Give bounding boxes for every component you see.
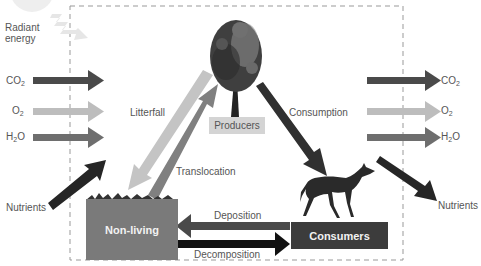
producers-box: Producers	[209, 117, 265, 134]
o2-main: O	[12, 105, 20, 116]
sun-icon	[10, 0, 54, 12]
output-co2-arrow	[367, 70, 441, 91]
nutrients-out-text: Nutrients	[438, 200, 478, 211]
input-nutrients-label: Nutrients	[6, 202, 46, 213]
co2-main: CO	[6, 75, 21, 86]
input-co2-label: CO2	[6, 75, 25, 89]
deposition-label: Deposition	[214, 210, 261, 221]
h2o-out-post: O	[452, 131, 460, 142]
output-h2o-arrow	[367, 127, 441, 148]
input-h2o-label: H2O	[6, 131, 25, 145]
co2-out-sub: 2	[456, 80, 460, 87]
input-o2-label: O2	[12, 105, 24, 119]
o2-out-sub: 2	[449, 110, 453, 117]
o2-sub: 2	[20, 110, 24, 117]
radiant-energy-icon	[50, 14, 88, 40]
consumers-label: Consumers	[309, 230, 370, 242]
output-o2-label: O2	[441, 105, 453, 119]
deer-icon	[300, 163, 375, 218]
h2o-post: O	[17, 131, 25, 142]
output-co2-label: CO2	[441, 75, 460, 89]
co2-sub: 2	[21, 80, 25, 87]
output-nutrients-arrow	[376, 156, 437, 201]
non-living-box: Non-living	[86, 199, 178, 260]
consumption-arrow	[256, 82, 327, 176]
non-living-label: Non-living	[105, 224, 159, 236]
o2-out-main: O	[441, 105, 449, 116]
translocation-label: Translocation	[176, 166, 236, 177]
litterfall-label: Litterfall	[130, 107, 165, 118]
co2-out-main: CO	[441, 75, 456, 86]
radiant-line1: Radiant	[5, 22, 39, 33]
output-o2-arrow	[367, 101, 441, 122]
input-h2o-arrow	[33, 127, 104, 148]
tree-icon	[210, 20, 262, 117]
radiant-line2: energy	[5, 33, 39, 44]
consumption-label: Consumption	[289, 107, 348, 118]
input-o2-arrow	[33, 101, 104, 122]
radiant-energy-label: Radiant energy	[5, 22, 39, 44]
decomposition-label: Decomposition	[194, 249, 260, 260]
consumers-box: Consumers	[291, 222, 388, 249]
output-nutrients-label: Nutrients	[438, 200, 478, 211]
output-h2o-label: H2O	[441, 131, 460, 145]
input-co2-arrow	[33, 70, 104, 91]
producers-label: Producers	[214, 120, 260, 131]
nutrients-in-text: Nutrients	[6, 202, 46, 213]
